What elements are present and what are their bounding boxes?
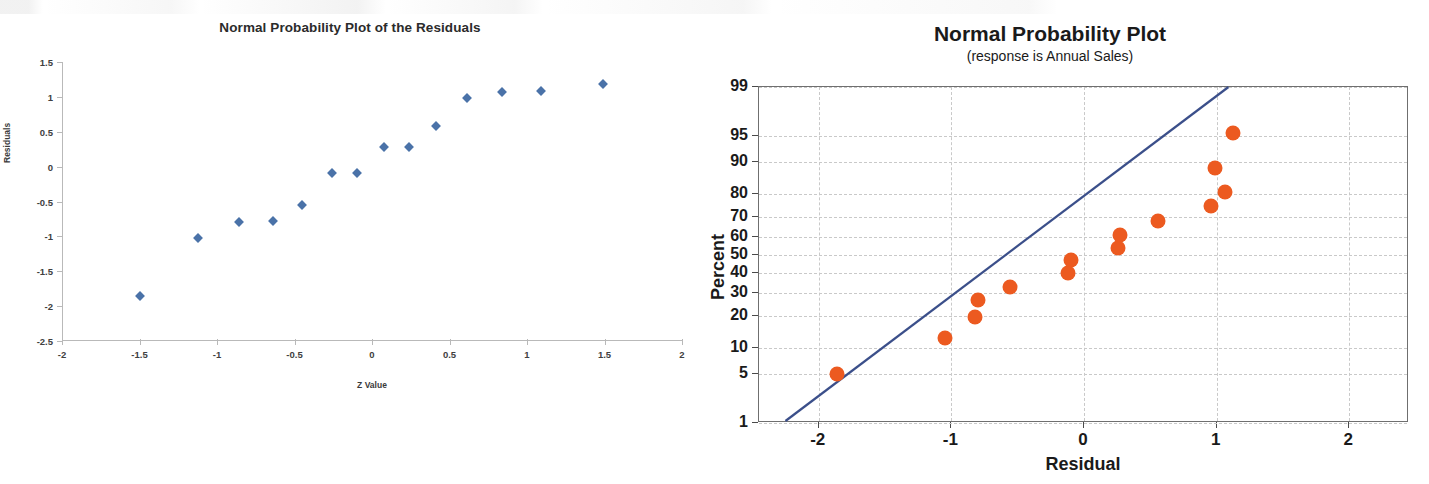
left-y-tick-label: -0.5 xyxy=(37,196,53,207)
left-y-tick-label: 0.5 xyxy=(40,126,53,137)
left-y-tick xyxy=(57,167,63,168)
right-y-tick-label: 30 xyxy=(730,283,748,301)
left-x-tick xyxy=(682,339,683,345)
right-data-point xyxy=(1217,184,1232,199)
left-plot-area: 1.510.50-0.5-1-1.5-2-2.5 -2-1.5-1-0.500.… xyxy=(62,62,682,341)
left-y-tick xyxy=(57,62,63,63)
left-data-point xyxy=(497,87,507,97)
left-data-point xyxy=(462,93,472,103)
right-gridline-horizontal xyxy=(759,423,1407,424)
right-y-tick-label: 1 xyxy=(739,413,748,431)
left-x-tick xyxy=(605,339,606,345)
left-x-tick xyxy=(372,339,373,345)
left-data-point xyxy=(135,291,145,301)
left-x-tick-label: 1 xyxy=(524,349,529,360)
left-x-tick xyxy=(450,339,451,345)
left-x-tick xyxy=(217,339,218,345)
right-y-tick-label: 50 xyxy=(730,245,748,263)
right-data-point xyxy=(1225,125,1240,140)
right-fit-line xyxy=(759,87,1407,421)
right-y-tick-label: 70 xyxy=(730,207,748,225)
right-data-point xyxy=(1112,227,1127,242)
left-x-tick xyxy=(140,339,141,345)
left-data-point xyxy=(297,200,307,210)
right-y-tick-label: 20 xyxy=(730,306,748,324)
left-y-tick xyxy=(57,132,63,133)
right-y-axis-label: Percent xyxy=(708,234,729,300)
left-chart-normal-probability-plot-residuals: Normal Probability Plot of the Residuals… xyxy=(0,0,714,420)
right-y-tick-label: 10 xyxy=(730,338,748,356)
left-x-tick-label: -1 xyxy=(213,349,221,360)
right-plot-area xyxy=(758,86,1408,422)
left-x-tick-label: 1.5 xyxy=(598,349,611,360)
left-x-tick-label: 2 xyxy=(679,349,684,360)
right-data-point xyxy=(968,310,983,325)
right-chart-title: Normal Probability Plot xyxy=(700,22,1400,46)
right-data-point xyxy=(830,366,845,381)
right-data-point xyxy=(1002,279,1017,294)
left-y-tick xyxy=(57,271,63,272)
left-x-tick xyxy=(295,339,296,345)
right-data-point xyxy=(1061,266,1076,281)
right-data-point xyxy=(970,293,985,308)
left-x-tick xyxy=(62,339,63,345)
right-y-tick-label: 60 xyxy=(730,227,748,245)
left-data-point xyxy=(598,79,608,89)
right-chart-normal-probability-plot: Normal Probability Plot (response is Ann… xyxy=(700,0,1429,484)
left-y-tick-label: -1 xyxy=(45,231,53,242)
left-data-point xyxy=(379,142,389,152)
right-y-tick-label: 40 xyxy=(730,263,748,281)
right-data-point xyxy=(937,331,952,346)
left-y-axis-label: Residuals xyxy=(2,123,12,163)
right-x-axis-label: Residual xyxy=(758,454,1408,475)
left-y-tick-label: -1.5 xyxy=(37,266,53,277)
right-y-tick-label: 80 xyxy=(730,184,748,202)
right-data-point xyxy=(1151,214,1166,229)
right-y-tick xyxy=(752,422,758,423)
left-y-tick xyxy=(57,236,63,237)
left-x-tick xyxy=(527,339,528,345)
right-chart-subtitle: (response is Annual Sales) xyxy=(700,48,1400,64)
left-x-axis-label: Z Value xyxy=(62,380,682,390)
left-chart-title: Normal Probability Plot of the Residuals xyxy=(0,20,700,35)
left-y-tick xyxy=(57,97,63,98)
left-data-point xyxy=(193,234,203,244)
left-y-tick xyxy=(57,306,63,307)
left-x-tick-label: 0 xyxy=(369,349,374,360)
left-y-tick-label: 1.5 xyxy=(40,57,53,68)
left-y-tick-label: 1 xyxy=(48,91,53,102)
left-data-point xyxy=(536,86,546,96)
right-data-point xyxy=(1208,161,1223,176)
left-x-tick-label: -1.5 xyxy=(131,349,147,360)
left-x-tick-label: -0.5 xyxy=(286,349,302,360)
left-data-point xyxy=(268,216,278,226)
right-y-tick-label: 95 xyxy=(730,126,748,144)
left-x-tick-label: 0.5 xyxy=(443,349,456,360)
right-data-point xyxy=(1111,240,1126,255)
left-data-point xyxy=(431,121,441,131)
right-data-point xyxy=(1063,253,1078,268)
left-data-point xyxy=(404,142,414,152)
right-x-tick-label: -2 xyxy=(810,430,825,450)
right-x-tick-label: 2 xyxy=(1344,430,1353,450)
left-x-tick-label: -2 xyxy=(58,349,66,360)
left-data-point xyxy=(234,217,244,227)
right-x-tick-label: -1 xyxy=(943,430,958,450)
left-data-point xyxy=(352,168,362,178)
left-y-tick-label: -2 xyxy=(45,301,53,312)
right-data-point xyxy=(1204,199,1219,214)
right-y-tick-label: 5 xyxy=(739,364,748,382)
right-x-tick-label: 0 xyxy=(1078,430,1087,450)
left-y-tick-label: -2.5 xyxy=(37,336,53,347)
left-y-tick-label: 0 xyxy=(48,161,53,172)
right-x-tick-label: 1 xyxy=(1211,430,1220,450)
left-y-tick xyxy=(57,202,63,203)
right-y-tick-label: 90 xyxy=(730,152,748,170)
right-y-tick-label: 99 xyxy=(730,77,748,95)
left-data-point xyxy=(327,168,337,178)
